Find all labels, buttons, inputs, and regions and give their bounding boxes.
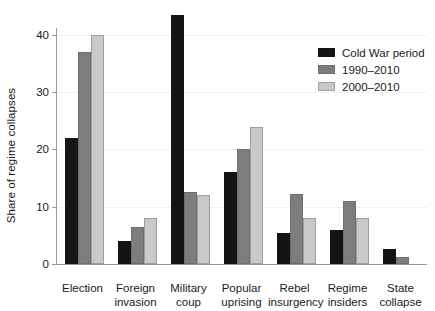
bar (78, 52, 91, 264)
legend-item: Cold War period (318, 44, 425, 61)
y-tick-label: 20 (36, 143, 49, 155)
legend-item: 2000–2010 (318, 78, 425, 95)
y-axis-line (56, 28, 57, 265)
y-tick-mark (52, 92, 56, 93)
y-tick-mark (52, 207, 56, 208)
y-axis-title: Share of regime collapses (0, 0, 22, 311)
legend-label: 2000–2010 (342, 81, 400, 93)
x-axis-label: Foreign invasion (109, 282, 162, 309)
bar (383, 249, 396, 264)
legend-swatch (318, 48, 335, 57)
legend: Cold War period1990–20102000–2010 (318, 44, 425, 95)
bar-group (65, 12, 104, 264)
bar-group (277, 12, 316, 264)
y-tick-label: 10 (36, 201, 49, 213)
x-axis-label: Popular uprising (215, 282, 268, 309)
bar (131, 227, 144, 264)
x-axis-line (56, 264, 427, 265)
x-axis-label: Rebel insurgency (268, 282, 321, 309)
bar (290, 194, 303, 264)
bar (224, 172, 237, 264)
bar-group (171, 12, 210, 264)
y-tick-label: 0 (43, 258, 49, 270)
bar (343, 201, 356, 264)
legend-swatch (318, 65, 335, 74)
bar (356, 218, 369, 264)
bar (396, 257, 409, 264)
bar-chart: Share of regime collapses 010203040 Elec… (0, 0, 435, 311)
x-axis-label: Military coup (162, 282, 215, 309)
y-tick-mark (52, 35, 56, 36)
legend-item: 1990–2010 (318, 61, 425, 78)
y-tick-mark (52, 149, 56, 150)
legend-label: 1990–2010 (342, 64, 400, 76)
bar (237, 149, 250, 264)
bar (197, 195, 210, 264)
bar (91, 35, 104, 264)
legend-label: Cold War period (342, 47, 425, 59)
bar (171, 15, 184, 264)
x-axis-label: Regime insiders (321, 282, 374, 309)
bar (303, 218, 316, 264)
bar (65, 138, 78, 264)
bar (250, 127, 263, 264)
y-tick-label: 30 (36, 86, 49, 98)
bar (277, 233, 290, 265)
bar (144, 218, 157, 264)
bar (118, 241, 131, 264)
x-axis-label: State collapse (374, 282, 427, 309)
x-axis-label: Election (56, 282, 109, 296)
bar-group (224, 12, 263, 264)
bar (184, 192, 197, 264)
bar-group (118, 12, 157, 264)
legend-swatch (318, 82, 335, 91)
y-tick-label: 40 (36, 29, 49, 41)
bar (330, 230, 343, 264)
